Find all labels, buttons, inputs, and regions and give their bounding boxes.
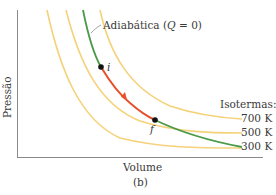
panel-label: (b) bbox=[133, 176, 148, 188]
isotherm-label-300k: 300 K bbox=[241, 140, 272, 152]
isotherm-label-500k: 500 K bbox=[241, 126, 272, 138]
point-final bbox=[152, 117, 158, 123]
adiabat-curve bbox=[83, 10, 101, 67]
adiabat-label: Adiabática (Q = 0) bbox=[102, 19, 202, 32]
x-axis-label: Volume bbox=[122, 161, 162, 173]
adiabat-leader bbox=[91, 25, 101, 33]
point-initial bbox=[98, 64, 104, 70]
isotherm-label-700k: 700 K bbox=[241, 112, 272, 124]
pv-diagram: i f Adiabática (Q = 0) Isotermas: 700 K … bbox=[0, 0, 276, 195]
y-axis-label: Pressão bbox=[1, 76, 13, 118]
isotherm-legend-title: Isotermas: bbox=[220, 98, 276, 110]
point-initial-label: i bbox=[107, 61, 110, 73]
